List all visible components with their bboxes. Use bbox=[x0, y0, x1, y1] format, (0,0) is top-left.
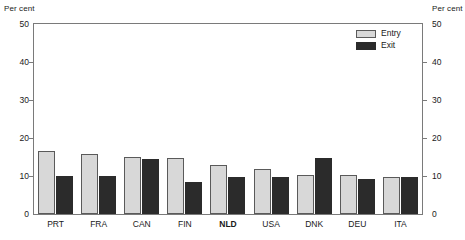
left-axis-tick-mark bbox=[29, 100, 33, 101]
bar-group bbox=[336, 24, 379, 214]
legend-item-entry: Entry bbox=[356, 28, 401, 39]
right-axis-tick-label: 0 bbox=[432, 210, 458, 219]
right-axis-unit-label: Per cent bbox=[432, 4, 463, 13]
bar-exit bbox=[401, 177, 418, 214]
bar-group bbox=[379, 24, 422, 214]
legend-swatch-exit bbox=[356, 42, 376, 50]
left-axis-tick-mark bbox=[29, 62, 33, 63]
right-axis-tick-label: 50 bbox=[432, 20, 458, 29]
legend-label: Entry bbox=[381, 29, 401, 38]
bar-entry bbox=[167, 158, 184, 214]
left-axis-tick-mark bbox=[29, 176, 33, 177]
category-label-fra: FRA bbox=[77, 220, 120, 229]
category-label-can: CAN bbox=[120, 220, 163, 229]
left-axis-tick-label: 0 bbox=[3, 210, 29, 219]
bar-exit bbox=[56, 176, 73, 214]
bar-group bbox=[34, 24, 77, 214]
right-axis-tick-mark bbox=[423, 138, 427, 139]
bar-entry bbox=[340, 175, 357, 214]
right-axis-tick-label: 30 bbox=[432, 96, 458, 105]
bar-group bbox=[77, 24, 120, 214]
bar-group bbox=[120, 24, 163, 214]
bar-entry bbox=[210, 165, 227, 214]
category-label-deu: DEU bbox=[336, 220, 379, 229]
category-label-fin: FIN bbox=[163, 220, 206, 229]
left-axis-tick-label: 10 bbox=[3, 172, 29, 181]
bar-entry bbox=[383, 177, 400, 214]
legend-label: Exit bbox=[381, 41, 395, 50]
left-axis-tick-label: 40 bbox=[3, 58, 29, 67]
bar-chart-figure: Per cent Per cent 5050404030302020101000… bbox=[0, 0, 465, 240]
bar-entry bbox=[254, 169, 271, 214]
bar-entry bbox=[81, 154, 98, 214]
bar-exit bbox=[142, 159, 159, 214]
right-axis-tick-mark bbox=[423, 176, 427, 177]
category-label-dnk: DNK bbox=[293, 220, 336, 229]
bar-group bbox=[163, 24, 206, 214]
category-label-ita: ITA bbox=[379, 220, 422, 229]
right-axis-tick-label: 10 bbox=[432, 172, 458, 181]
bar-entry bbox=[297, 175, 314, 214]
bar-exit bbox=[358, 179, 375, 214]
legend-item-exit: Exit bbox=[356, 40, 401, 51]
right-axis-tick-mark bbox=[423, 100, 427, 101]
left-axis-tick-label: 20 bbox=[3, 134, 29, 143]
left-axis-unit-label: Per cent bbox=[4, 4, 35, 13]
right-axis-tick-mark bbox=[423, 62, 427, 63]
legend-swatch-entry bbox=[356, 30, 376, 38]
bar-exit bbox=[99, 176, 116, 214]
left-axis-tick-label: 30 bbox=[3, 96, 29, 105]
right-axis-tick-label: 40 bbox=[432, 58, 458, 67]
bar-exit bbox=[315, 158, 332, 214]
category-label-prt: PRT bbox=[34, 220, 77, 229]
chart-legend: EntryExit bbox=[356, 28, 401, 52]
category-label-usa: USA bbox=[250, 220, 293, 229]
bar-exit bbox=[185, 182, 202, 214]
bar-exit bbox=[272, 177, 289, 214]
category-label-nld: NLD bbox=[206, 220, 249, 229]
right-axis-tick-label: 20 bbox=[432, 134, 458, 143]
left-axis-tick-label: 50 bbox=[3, 20, 29, 29]
bar-exit bbox=[228, 177, 245, 214]
bar-entry bbox=[38, 151, 55, 214]
bar-group bbox=[293, 24, 336, 214]
bars-container bbox=[34, 24, 422, 214]
bar-group bbox=[250, 24, 293, 214]
bar-group bbox=[206, 24, 249, 214]
bar-entry bbox=[124, 157, 141, 214]
left-axis-tick-mark bbox=[29, 138, 33, 139]
